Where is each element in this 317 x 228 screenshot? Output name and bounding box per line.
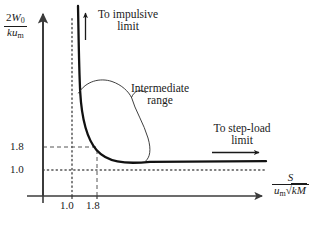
y-tick-label-1-0: 1.0 — [10, 164, 24, 176]
annotation-impulsive-line1: To impulsive — [92, 8, 164, 20]
annotation-intermediate-line2: range — [118, 94, 202, 106]
figure-container: 1.8 1.0 1.0 1.8 2W0 kum S um√kM To impul… — [0, 0, 317, 228]
y-axis-label-num-subscript: 0 — [21, 16, 25, 25]
y-axis-label-den-subscript: m — [17, 31, 23, 40]
x-axis-label-radicand: kM — [291, 183, 307, 196]
annotation-stepload-line1: To step-load — [200, 122, 284, 134]
y-tick-label-1-8: 1.8 — [10, 141, 24, 153]
x-axis-label: S um√kM — [272, 172, 309, 199]
y-axis-label-num-symbol: W — [12, 11, 21, 23]
annotation-impulsive-line2: limit — [92, 20, 164, 32]
x-tick-label-1-8: 1.8 — [86, 200, 100, 212]
x-axis-label-num-symbol: S — [288, 171, 294, 183]
y-axis-label: 2W0 kum — [4, 12, 27, 40]
chart-canvas — [0, 0, 317, 228]
annotation-intermediate-range: Intermediate range — [118, 82, 202, 107]
annotation-intermediate-line1: Intermediate — [118, 82, 202, 94]
annotation-impulsive-limit: To impulsive limit — [92, 8, 164, 33]
annotation-stepload-line2: limit — [200, 134, 284, 146]
intermediate-range-brace-tail — [132, 98, 150, 162]
x-tick-label-1-0: 1.0 — [60, 200, 74, 212]
annotation-step-load-limit: To step-load limit — [200, 122, 284, 147]
